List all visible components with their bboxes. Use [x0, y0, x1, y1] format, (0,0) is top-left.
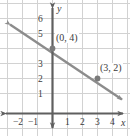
x-axis-name: x: [121, 118, 125, 128]
y-tick-label-3: 3: [38, 60, 43, 70]
x-tick-label-neg2: −2: [13, 118, 23, 128]
y-tick-label-6: 6: [38, 15, 43, 25]
y-tick-label-2: 2: [38, 75, 43, 85]
y-tick-label-5: 5: [38, 30, 43, 40]
x-tick-label-2: 2: [80, 118, 85, 128]
x-tick-label-3: 3: [95, 118, 100, 128]
point-marker-3-2: [95, 76, 101, 82]
x-tick-label-neg1: −1: [28, 118, 38, 128]
point-marker-0-4: [50, 46, 56, 52]
x-tick-label-4: 4: [110, 118, 115, 128]
y-axis-name: y: [57, 4, 61, 14]
point-label-3-2: (3, 2): [99, 63, 123, 73]
x-tick-label-1: 1: [65, 118, 70, 128]
coordinate-plane-graph: 6 5 3 2 1 −2 −1 1 2 3 4 y x (0, 4) (3, 2…: [0, 0, 130, 136]
point-label-0-4: (0, 4): [55, 33, 79, 43]
y-tick-label-1: 1: [38, 90, 43, 100]
